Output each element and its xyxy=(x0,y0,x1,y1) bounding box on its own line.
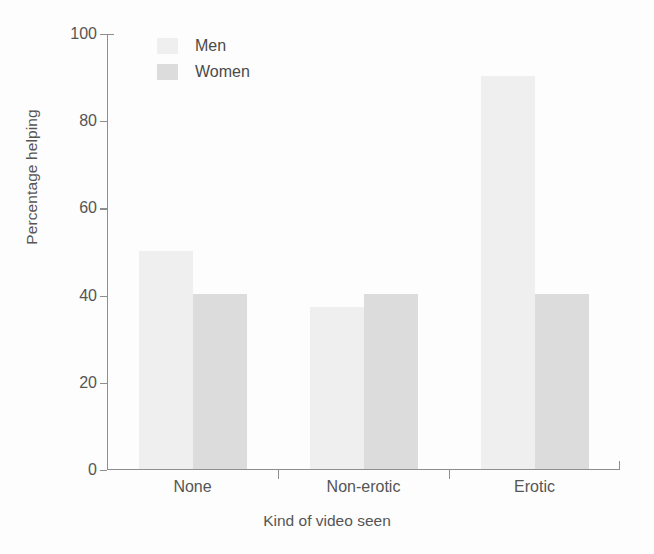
y-tick-label: 60 xyxy=(79,199,97,217)
x-axis-right-cap xyxy=(619,461,620,470)
bar-non-erotic-men xyxy=(310,307,364,468)
x-category-label: None xyxy=(173,478,211,496)
legend-swatch-women-icon xyxy=(157,64,178,80)
y-tick xyxy=(100,470,107,471)
y-axis-top-cap xyxy=(107,34,114,35)
bar-erotic-women xyxy=(535,294,589,468)
legend-entry-women: Women xyxy=(157,59,250,85)
x-axis-line xyxy=(107,469,620,470)
y-axis-title: Percentage helping xyxy=(23,87,41,267)
x-category-label: Non-erotic xyxy=(327,478,401,496)
legend-label-women: Women xyxy=(195,63,250,81)
bar-none-women xyxy=(193,294,247,468)
x-tick xyxy=(278,470,279,479)
y-tick-label: 100 xyxy=(70,25,97,43)
bar-none-men xyxy=(139,251,193,469)
bar-erotic-men xyxy=(481,76,535,468)
bar-chart: Percentage helping 020406080100 NoneNon-… xyxy=(0,0,654,554)
y-axis-line xyxy=(107,34,108,470)
y-tick-label: 0 xyxy=(88,461,97,479)
y-tick xyxy=(100,121,107,122)
y-tick-label: 40 xyxy=(79,287,97,305)
legend-entry-men: Men xyxy=(157,33,250,59)
legend-label-men: Men xyxy=(195,37,226,55)
y-tick xyxy=(100,296,107,297)
y-tick xyxy=(100,34,107,35)
plot-area: 020406080100 xyxy=(107,34,620,470)
legend-swatch-men-icon xyxy=(157,38,178,54)
legend: Men Women xyxy=(157,33,250,85)
x-category-label: Erotic xyxy=(514,478,555,496)
bar-non-erotic-women xyxy=(364,294,418,468)
y-tick-label: 80 xyxy=(79,112,97,130)
x-tick xyxy=(449,470,450,479)
y-tick-label: 20 xyxy=(79,374,97,392)
x-axis-title: Kind of video seen xyxy=(0,512,654,530)
y-tick xyxy=(100,383,107,384)
y-tick xyxy=(100,208,107,209)
